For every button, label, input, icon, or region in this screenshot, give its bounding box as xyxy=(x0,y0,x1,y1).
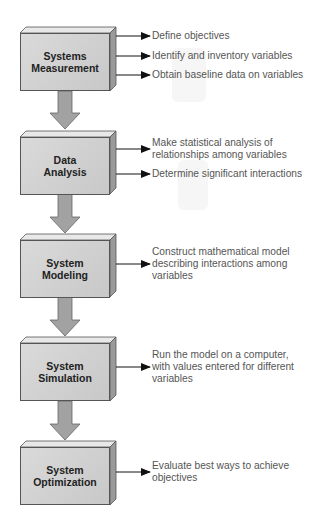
box-side-edge xyxy=(110,441,116,505)
step-output-text: Make statistical analysis of relationshi… xyxy=(152,137,287,161)
box-side-edge xyxy=(110,131,116,194)
box-side-edge xyxy=(110,27,116,91)
step-output-text: Define objectives xyxy=(152,30,230,42)
flowchart-diagram: Systems Measurement Data Analysis System… xyxy=(0,0,321,523)
step-label: System Optimization xyxy=(33,464,97,488)
step-output-text: Obtain baseline data on variables xyxy=(152,69,303,81)
flow-arrow-icon xyxy=(50,401,80,440)
flow-arrow-icon xyxy=(50,194,80,233)
step-output-text: Construct mathematical model describing … xyxy=(152,246,290,282)
flow-arrow-icon xyxy=(50,91,80,129)
step-box-system-modeling: System Modeling xyxy=(20,240,110,298)
step-box-data-analysis: Data Analysis xyxy=(20,137,110,195)
step-label: Systems Measurement xyxy=(31,50,99,74)
step-output-text: Identify and inventory variables xyxy=(152,50,292,62)
flow-arrow-icon xyxy=(50,297,80,336)
step-label: Data Analysis xyxy=(43,154,86,178)
step-output-text: Run the model on a computer, with values… xyxy=(152,349,294,385)
step-box-system-optimization: System Optimization xyxy=(20,447,110,505)
box-side-edge xyxy=(110,234,116,297)
step-output-text: Evaluate best ways to achieve objectives xyxy=(152,460,289,484)
step-box-system-simulation: System Simulation xyxy=(20,343,110,401)
step-output-text: Determine significant interactions xyxy=(152,168,302,180)
box-side-edge xyxy=(110,337,116,401)
step-label: System Modeling xyxy=(42,257,88,281)
step-box-systems-measurement: Systems Measurement xyxy=(20,33,110,91)
step-label: System Simulation xyxy=(38,360,92,384)
